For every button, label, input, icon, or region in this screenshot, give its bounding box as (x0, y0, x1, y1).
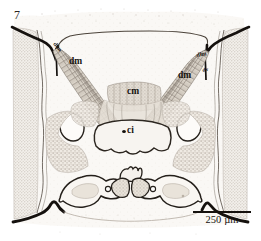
tissue-dot-right (182, 195, 185, 198)
scale-bar: 250 µm (192, 211, 252, 225)
scale-bar-label: 250 µm (192, 214, 252, 225)
sensillum-right (150, 186, 155, 191)
sensillum-left (105, 186, 110, 191)
annotation-dv-right: dv (202, 67, 209, 74)
annotation-dm-left: dm (69, 57, 82, 67)
annotation-dm-right: dm (178, 71, 191, 81)
scale-bar-line (193, 211, 251, 213)
annotation-cm: cm (127, 87, 139, 97)
annotation-ci: ci (127, 126, 134, 136)
figure-number: 7 (14, 9, 20, 21)
histology-cross-section-drawing (0, 0, 261, 241)
figure-panel: 7 dlm dlm dv dm dm cm ci 250 µm (0, 0, 261, 241)
nucleus-dot (122, 130, 126, 133)
